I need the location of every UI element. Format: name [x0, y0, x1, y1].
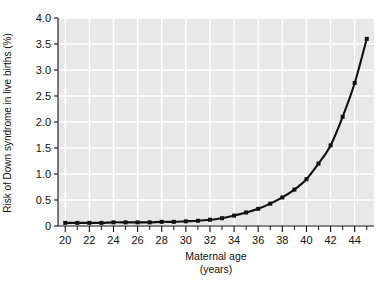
- y-axis-tick-label: 4.0: [36, 12, 51, 24]
- data-point-marker: [87, 221, 91, 225]
- data-point-marker: [341, 115, 345, 119]
- y-axis-title: Risk of Down syndrome in live births (%): [1, 3, 15, 243]
- data-point-marker: [329, 143, 333, 147]
- x-axis-title-line1: Maternal age: [185, 250, 246, 262]
- data-point-marker: [184, 219, 188, 223]
- data-point-marker: [220, 216, 224, 220]
- data-point-marker: [63, 221, 67, 225]
- data-point-marker: [292, 188, 296, 192]
- x-axis-tick-label: 20: [59, 234, 71, 246]
- data-point-marker: [136, 220, 140, 224]
- y-axis-tick-label: 2.5: [36, 90, 51, 102]
- x-axis-title: Maternal age (years): [58, 250, 374, 276]
- data-point-marker: [196, 219, 200, 223]
- x-axis-tick-label: 24: [107, 234, 119, 246]
- x-axis-tick-label: 38: [276, 234, 288, 246]
- y-axis-tick-label: 3.0: [36, 64, 51, 76]
- x-axis-tick-label: 36: [252, 234, 264, 246]
- y-axis-tick-label: 3.5: [36, 38, 51, 50]
- x-axis-tick-label: 22: [83, 234, 95, 246]
- x-axis-tick-label: 32: [204, 234, 216, 246]
- x-axis-tick-label: 28: [156, 234, 168, 246]
- data-point-marker: [268, 202, 272, 206]
- data-point-marker: [208, 218, 212, 222]
- y-axis-tick-label: 0.5: [36, 194, 51, 206]
- data-point-marker: [232, 214, 236, 218]
- x-axis-tick-label: 44: [349, 234, 361, 246]
- data-point-marker: [111, 220, 115, 224]
- data-point-marker: [256, 207, 260, 211]
- data-point-marker: [365, 37, 369, 41]
- data-point-marker: [353, 81, 357, 85]
- y-axis-tick-label: 1.0: [36, 168, 51, 180]
- data-point-marker: [99, 221, 103, 225]
- y-axis-tick-label: 0: [45, 220, 51, 232]
- data-point-marker: [244, 210, 248, 214]
- data-point-marker: [317, 162, 321, 166]
- data-point-marker: [75, 221, 79, 225]
- x-axis-tick-label: 42: [324, 234, 336, 246]
- x-axis-title-line2: (years): [58, 263, 374, 276]
- x-axis-tick-label: 26: [131, 234, 143, 246]
- data-point-marker: [148, 220, 152, 224]
- data-point-marker: [160, 220, 164, 224]
- plot-right-mask: [374, 0, 388, 285]
- y-axis-tick-label: 2.0: [36, 116, 51, 128]
- data-point-marker: [124, 220, 128, 224]
- y-axis-tick-label: 1.5: [36, 142, 51, 154]
- chart-figure: Risk of Down syndrome in live births (%)…: [0, 0, 388, 285]
- data-point-marker: [280, 195, 284, 199]
- x-axis-tick-label: 30: [180, 234, 192, 246]
- x-axis-tick-label: 34: [228, 234, 240, 246]
- data-point-marker: [304, 177, 308, 181]
- chart-plot-area: 00.51.01.52.02.53.03.54.0202224262830323…: [0, 0, 388, 285]
- data-point-marker: [172, 220, 176, 224]
- x-axis-tick-label: 40: [300, 234, 312, 246]
